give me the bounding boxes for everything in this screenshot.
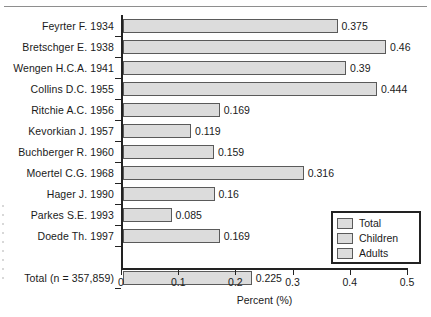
x-axis-tick <box>235 270 236 275</box>
bar <box>123 82 377 96</box>
x-axis-tick <box>121 270 122 275</box>
bar-row-label: Ritchie A.C. 1956 <box>0 100 114 121</box>
scan-artifact <box>2 223 4 225</box>
scan-artifact <box>2 232 4 234</box>
x-axis-tick-label: 0.5 <box>387 276 427 288</box>
bar-value-label: 0.39 <box>350 58 370 79</box>
legend-label-adults: Adults <box>359 248 388 259</box>
bar-row-label: Doede Th. 1997 <box>0 226 114 247</box>
x-axis-tick-label: 0.4 <box>330 276 370 288</box>
plot-area: Feyrter F. 19340.375Bretschger E. 19380.… <box>0 0 431 317</box>
x-axis-tick-label: 0 <box>101 276 141 288</box>
legend-item-adults: Adults <box>337 246 415 261</box>
bar-value-label: 0.46 <box>390 37 410 58</box>
scan-artifact <box>2 259 4 261</box>
bar-value-label: 0.085 <box>176 205 202 226</box>
bar-value-label: 0.316 <box>308 163 334 184</box>
bar-row-label: Collins D.C. 1955 <box>0 79 114 100</box>
scan-artifact <box>2 250 4 252</box>
bar <box>123 145 214 159</box>
bar-row-label: Hager J. 1990 <box>0 184 114 205</box>
x-axis-title: Percent (%) <box>121 294 408 306</box>
legend-label-total: Total <box>359 218 381 229</box>
scan-artifact <box>2 268 4 270</box>
x-axis-tick-label: 0.2 <box>215 276 255 288</box>
bar-row: Ritchie A.C. 19560.169 <box>0 100 431 121</box>
scan-artifact <box>2 214 4 216</box>
bar-row-label: Wengen H.C.A. 1941 <box>0 58 114 79</box>
scan-artifact <box>2 241 4 243</box>
x-axis-tick <box>350 270 351 275</box>
bar-row-label: Parkes S.E. 1993 <box>0 205 114 226</box>
bar-value-label: 0.169 <box>224 100 250 121</box>
bar <box>123 40 386 54</box>
legend-item-children: Children <box>337 231 415 246</box>
x-axis-tick <box>178 270 179 275</box>
legend-item-total: Total <box>337 216 415 231</box>
bar <box>123 166 304 180</box>
bar-row: Collins D.C. 19550.444 <box>0 79 431 100</box>
bar-row-label: Buchberger R. 1960 <box>0 142 114 163</box>
bar-value-label: 0.159 <box>218 142 244 163</box>
bar-row: Kevorkian J. 19570.119 <box>0 121 431 142</box>
figure-bar-chart: Feyrter F. 19340.375Bretschger E. 19380.… <box>0 0 431 317</box>
bar <box>123 208 172 222</box>
x-axis-tick-label: 0.1 <box>158 276 198 288</box>
bar-row: Bretschger E. 19380.46 <box>0 37 431 58</box>
scan-artifact <box>2 205 4 207</box>
chart-legend: Total Children Adults <box>331 211 421 264</box>
bar-row-label: Kevorkian J. 1957 <box>0 121 114 142</box>
bar-value-label: 0.169 <box>224 226 250 247</box>
x-axis-tick <box>407 270 408 275</box>
bar-row: Feyrter F. 19340.375 <box>0 16 431 37</box>
legend-swatch-icon-adults <box>337 248 353 259</box>
bar-row-label: Bretschger E. 1938 <box>0 37 114 58</box>
legend-label-children: Children <box>359 233 398 244</box>
category-axis-tick <box>115 288 121 289</box>
bar <box>123 103 220 117</box>
scan-artifact <box>2 277 4 279</box>
bar-value-label: 0.375 <box>342 16 368 37</box>
bar <box>123 229 220 243</box>
bar-row: Wengen H.C.A. 19410.39 <box>0 58 431 79</box>
bar <box>123 124 191 138</box>
legend-swatch-icon-total <box>337 218 353 229</box>
category-axis-tick <box>115 246 121 247</box>
legend-swatch-icon-children <box>337 233 353 244</box>
bar <box>123 187 215 201</box>
x-axis-tick-label: 0.3 <box>273 276 313 288</box>
bar-row: Hager J. 19900.16 <box>0 184 431 205</box>
bar <box>123 61 346 75</box>
bar-value-label: 0.16 <box>219 184 239 205</box>
bar-row: Buchberger R. 19600.159 <box>0 142 431 163</box>
bar-value-label: 0.444 <box>381 79 407 100</box>
bar-value-label: 0.119 <box>195 121 221 142</box>
bar-row-label: Feyrter F. 1934 <box>0 16 114 37</box>
bar-row-label: Total (n = 357,859) <box>0 268 114 289</box>
bar-row: Moertel C.G. 19680.316 <box>0 163 431 184</box>
bar-row-label: Moertel C.G. 1968 <box>0 163 114 184</box>
x-axis-tick <box>293 270 294 275</box>
bar <box>123 19 338 33</box>
